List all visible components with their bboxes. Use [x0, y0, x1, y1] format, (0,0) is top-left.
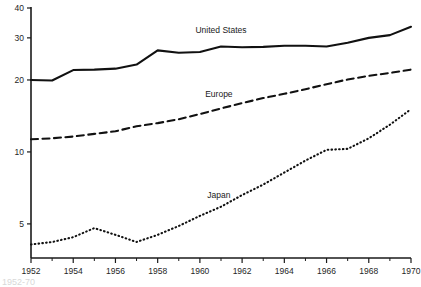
- chart-figure: 5102030401952195419561958196019621964196…: [0, 0, 421, 287]
- series-line-japan: [31, 109, 411, 244]
- x-tick-label: 1970: [402, 266, 421, 276]
- x-tick-label: 1954: [64, 266, 83, 276]
- x-tick-label: 1958: [148, 266, 167, 276]
- x-tick-label: 1960: [190, 266, 209, 276]
- x-tick-label: 1962: [233, 266, 252, 276]
- series-label-europe: Europe: [205, 89, 233, 99]
- x-tick-label: 1968: [359, 266, 378, 276]
- figure-caption: 1952-70: [2, 277, 419, 287]
- y-tick-label: 40: [15, 3, 25, 13]
- y-tick-label: 5: [19, 219, 24, 229]
- line-chart: 5102030401952195419561958196019621964196…: [0, 0, 421, 287]
- x-tick-label: 1956: [106, 266, 125, 276]
- y-tick-label: 30: [15, 33, 25, 43]
- x-tick-label: 1966: [317, 266, 336, 276]
- y-tick-label: 10: [15, 147, 25, 157]
- series-label-united-states: United States: [195, 25, 246, 35]
- series-label-japan: Japan: [207, 190, 230, 200]
- y-tick-label: 20: [15, 75, 25, 85]
- x-tick-label: 1964: [275, 266, 294, 276]
- series-line-europe: [31, 70, 411, 140]
- x-tick-label: 1952: [22, 266, 41, 276]
